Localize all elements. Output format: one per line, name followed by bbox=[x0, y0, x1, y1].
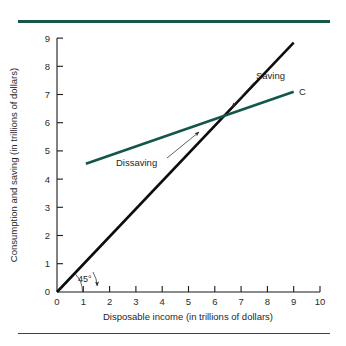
dissaving-leader-arrow bbox=[167, 132, 199, 158]
x-tick-label-7: 7 bbox=[238, 296, 243, 307]
x-tick-label-2: 2 bbox=[107, 296, 112, 307]
x-tick-label-3: 3 bbox=[133, 296, 138, 307]
x-tick-label-1: 1 bbox=[81, 296, 86, 307]
y-tick-label-8: 8 bbox=[45, 61, 50, 72]
x-tick-label-9: 9 bbox=[291, 296, 296, 307]
y-tick-label-9: 9 bbox=[45, 33, 50, 44]
y-tick-label-7: 7 bbox=[45, 89, 50, 100]
x-tick-label-5: 5 bbox=[186, 296, 191, 307]
y-tick-label-6: 6 bbox=[45, 117, 50, 128]
y-tick-label-4: 4 bbox=[45, 174, 50, 185]
x-tick-label-0: 0 bbox=[54, 296, 59, 307]
x-tick-labels: 0 1 2 3 4 5 6 7 8 9 10 bbox=[54, 296, 325, 307]
dissaving-label: Dissaving bbox=[116, 157, 157, 168]
x-tick-label-10: 10 bbox=[315, 296, 326, 307]
saving-leader-arrow bbox=[232, 83, 254, 108]
y-axis-title: Consumption and saving (in trillions of … bbox=[8, 68, 19, 262]
curve-label-c: C bbox=[299, 86, 306, 97]
y-tick-label-0: 0 bbox=[45, 286, 50, 297]
angle-label: 45° bbox=[78, 274, 92, 284]
figure-container: 0 1 2 3 4 5 6 7 8 9 0 1 2 3 4 5 6 7 8 9 … bbox=[0, 0, 346, 346]
angle-arc-arrow bbox=[93, 272, 97, 286]
x-tick-label-6: 6 bbox=[212, 296, 217, 307]
x-tick-marks bbox=[83, 286, 320, 292]
saving-label: Saving bbox=[256, 70, 285, 81]
chart-canvas: 0 1 2 3 4 5 6 7 8 9 0 1 2 3 4 5 6 7 8 9 … bbox=[0, 0, 346, 346]
x-tick-label-4: 4 bbox=[160, 296, 165, 307]
x-axis-title: Disposable income (in trillions of dolla… bbox=[103, 311, 273, 322]
y-tick-label-2: 2 bbox=[45, 230, 50, 241]
y-tick-label-5: 5 bbox=[45, 145, 50, 156]
y-tick-marks bbox=[57, 38, 63, 264]
y-tick-label-1: 1 bbox=[45, 258, 50, 269]
x-tick-label-8: 8 bbox=[265, 296, 270, 307]
y-tick-labels: 0 1 2 3 4 5 6 7 8 9 bbox=[45, 33, 50, 298]
y-tick-label-3: 3 bbox=[45, 202, 50, 213]
